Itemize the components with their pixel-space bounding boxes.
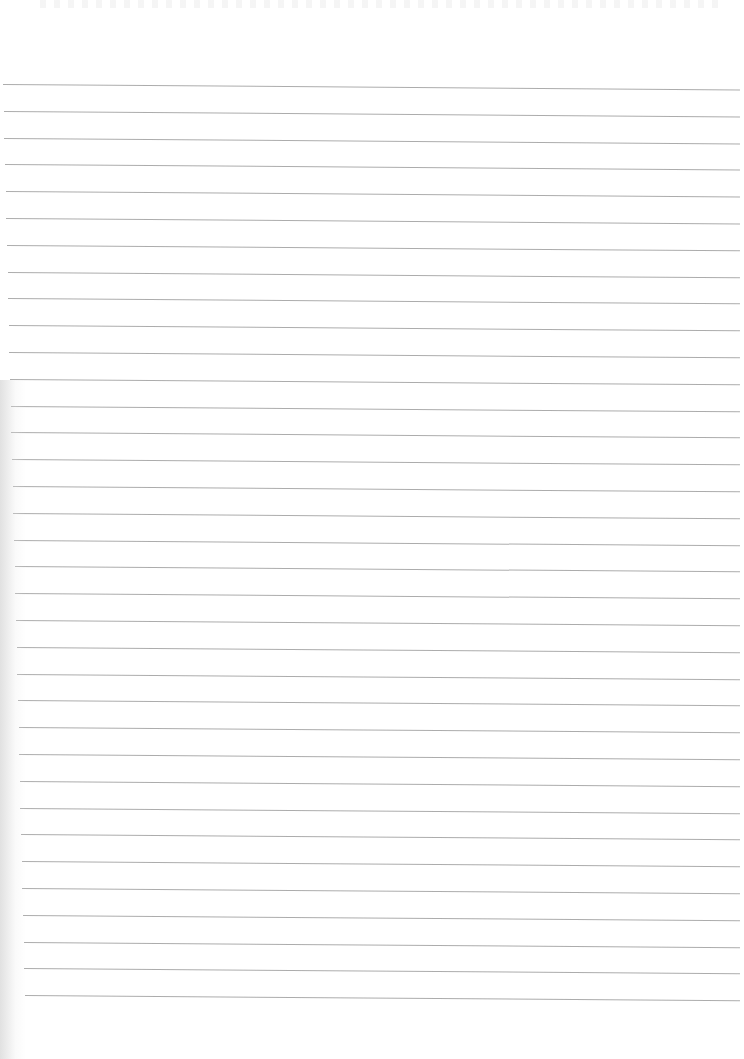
ruled-line — [14, 540, 740, 546]
ruled-paper-page — [0, 0, 744, 1059]
ruled-line — [5, 164, 740, 170]
ruled-line — [17, 674, 740, 680]
ruled-line — [25, 995, 740, 1001]
ruled-line — [21, 834, 740, 840]
ruled-line — [3, 84, 740, 90]
ruled-line — [4, 138, 740, 144]
page-edge-shadow — [0, 380, 26, 1059]
ruled-line — [16, 620, 740, 626]
ruled-line — [23, 915, 740, 921]
ruled-line — [13, 513, 740, 519]
ruled-line — [17, 647, 740, 653]
bleed-through-marks — [40, 0, 720, 8]
ruled-line — [8, 272, 740, 278]
ruled-line — [8, 298, 740, 304]
ruled-line — [7, 245, 740, 251]
ruled-line — [11, 432, 740, 438]
ruled-line — [4, 111, 740, 117]
ruled-line — [20, 781, 740, 787]
ruled-line — [13, 486, 740, 492]
ruled-line — [19, 754, 740, 760]
ruled-line — [11, 406, 740, 412]
ruled-line — [24, 942, 740, 948]
ruled-line — [15, 593, 740, 599]
ruled-line — [24, 968, 740, 974]
ruled-line — [9, 352, 740, 358]
ruled-line — [22, 861, 740, 867]
ruled-line — [9, 325, 740, 331]
ruled-line — [18, 700, 740, 706]
ruled-line — [15, 566, 740, 572]
ruled-line — [22, 888, 740, 894]
ruled-line — [19, 727, 740, 733]
ruled-line — [6, 191, 740, 197]
ruled-line — [10, 379, 740, 385]
ruled-line — [12, 459, 740, 465]
ruled-line — [20, 808, 740, 814]
ruled-line — [6, 218, 740, 224]
